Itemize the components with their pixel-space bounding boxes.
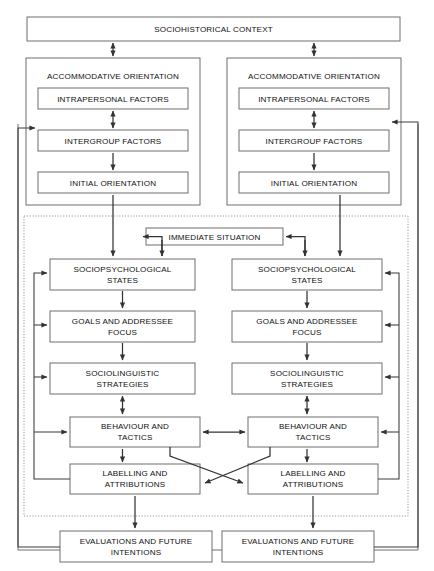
label-initial-orientation-left: INITIAL ORIENTATION [70,179,156,188]
label-accommodative-orientation-left: ACCOMMODATIVE ORIENTATION [47,72,179,81]
label-behaviour-tactics-left-line2: TACTICS [117,433,153,442]
label-labelling-attributions-left-line2: ATTRIBUTIONS [105,480,166,489]
label-behaviour-tactics-left-line1: BEHAVIOUR AND [101,422,169,431]
label-goals-addressee-focus-right-line1: GOALS AND ADDRESSEE [256,317,358,326]
label-sociolinguistic-strategies-right-line1: SOCIOLINGUISTIC [270,369,344,378]
label-labelling-attributions-left-line1: LABELLING AND [103,469,168,478]
label-intrapersonal-factors-left: INTRAPERSONAL FACTORS [57,95,169,104]
label-goals-addressee-focus-left-line1: GOALS AND ADDRESSEE [72,317,174,326]
label-intrapersonal-factors-right: INTRAPERSONAL FACTORS [258,95,370,104]
label-sociopsychological-states-right-line1: SOCIOPSYCHOLOGICAL [258,265,356,274]
label-initial-orientation-right: INITIAL ORIENTATION [271,179,357,188]
label-goals-addressee-focus-left-line2: FOCUS [108,328,138,337]
label-sociolinguistic-strategies-right-line2: STRATEGIES [281,380,334,389]
label-goals-addressee-focus-right-line2: FOCUS [292,328,322,337]
connector-right-to-immediate-situation [286,237,305,257]
accommodation-theory-diagram: SOCIOHISTORICAL CONTEXT ACCOMMODATIVE OR… [0,0,434,571]
label-behaviour-tactics-right-line1: BEHAVIOUR AND [279,422,347,431]
label-sociolinguistic-strategies-left-line2: STRATEGIES [96,380,149,389]
label-behaviour-tactics-right-line2: TACTICS [295,433,331,442]
label-evaluations-left-line1: EVALUATIONS AND FUTURE [80,537,193,546]
label-evaluations-right-line1: EVALUATIONS AND FUTURE [242,537,355,546]
label-sociopsychological-states-right-line2: STATES [291,276,323,285]
label-labelling-attributions-right-line2: ATTRIBUTIONS [283,480,344,489]
label-sociohistorical-context: SOCIOHISTORICAL CONTEXT [154,25,273,34]
label-immediate-situation: IMMEDIATE SITUATION [168,233,260,242]
label-labelling-attributions-right-line1: LABELLING AND [281,469,346,478]
label-accommodative-orientation-right: ACCOMMODATIVE ORIENTATION [248,72,380,81]
label-evaluations-left-line2: INTENTIONS [111,548,162,557]
label-evaluations-right-line2: INTENTIONS [273,548,324,557]
label-sociopsychological-states-left-line2: STATES [107,276,139,285]
diagram-canvas: SOCIOHISTORICAL CONTEXT ACCOMMODATIVE OR… [0,0,434,571]
label-sociolinguistic-strategies-left-line1: SOCIOLINGUISTIC [86,369,160,378]
label-intergroup-factors-left: INTERGROUP FACTORS [65,137,162,146]
label-intergroup-factors-right: INTERGROUP FACTORS [266,137,363,146]
label-sociopsychological-states-left-line1: SOCIOPSYCHOLOGICAL [73,265,171,274]
